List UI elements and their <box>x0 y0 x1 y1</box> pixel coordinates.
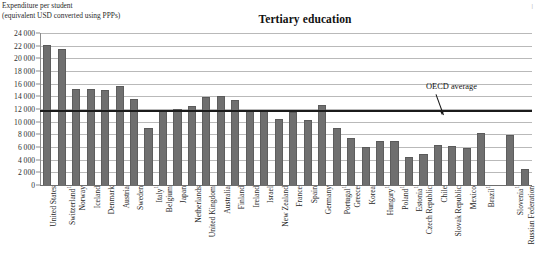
x-axis-tick-label: New Zealand <box>282 186 290 227</box>
bar <box>275 119 283 185</box>
x-axis-tick-label: Brazil1 <box>484 186 496 207</box>
bar <box>72 89 80 185</box>
bar <box>448 146 456 185</box>
y-axis-tick-label: 18 000 <box>14 67 35 76</box>
y-axis-tick-label: 24 000 <box>14 29 35 38</box>
bar <box>101 90 109 185</box>
y-axis-tick-label: 8 000 <box>18 130 35 139</box>
chart-title: Tertiary education <box>205 13 405 25</box>
x-axis-tick-label: United States <box>50 186 58 227</box>
x-axis-tick-label: Spain <box>311 186 319 203</box>
x-axis-tick-label: Switzerland1 <box>65 186 77 225</box>
x-axis-tick-label: Iceland <box>94 186 102 208</box>
y-axis-tick-label: 20 000 <box>14 54 35 63</box>
page-corner-mark: | <box>532 2 533 10</box>
x-axis-tick-label: Germany <box>325 186 333 214</box>
x-axis-tick-label: Italy1 <box>152 186 164 203</box>
bar <box>260 110 268 185</box>
bar <box>333 128 341 185</box>
x-axis-tick-label: Poland1 <box>398 186 410 210</box>
bar <box>43 45 51 185</box>
oecd-average-line <box>40 110 532 112</box>
bar <box>116 86 124 185</box>
bar <box>376 141 384 185</box>
bar <box>419 154 427 185</box>
bar <box>521 169 529 185</box>
x-axis-tick-label: Norway <box>79 186 87 210</box>
chart-figure: Expenditure per student (equivalent USD … <box>0 0 535 278</box>
bar <box>405 157 413 186</box>
y-axis-tick-label: 22 000 <box>14 41 35 50</box>
x-axis-tick-label: Australia <box>224 186 232 214</box>
x-axis-tick-label: Ireland <box>253 186 261 208</box>
bar <box>246 110 254 185</box>
x-axis-tick-label: Mexico <box>470 186 478 209</box>
bar <box>477 133 485 185</box>
x-axis-tick-label: Japan <box>180 186 188 203</box>
y-axis-tick-label: 16 000 <box>14 79 35 88</box>
x-axis-tick-label: Greece <box>354 186 362 208</box>
bar <box>304 120 312 185</box>
x-axis-labels: United StatesSwitzerland1NorwayIcelandDe… <box>40 186 532 278</box>
plot-area <box>40 33 532 185</box>
x-axis-tick-label: Finland <box>238 186 246 209</box>
bar <box>58 49 66 185</box>
x-axis-tick-label: Chile <box>441 186 449 202</box>
x-axis-tick-label: Portugal1 <box>340 186 352 214</box>
y-axis: 02 0004 0006 0008 00010 00012 00014 0001… <box>0 33 40 185</box>
x-axis-tick-label: Sweden <box>137 186 145 210</box>
x-axis-tick-label: Netherlands <box>195 186 203 223</box>
x-axis-tick-label: Slovenia1 <box>513 186 525 215</box>
axis-caption: Expenditure per student (equivalent USD … <box>2 1 120 20</box>
x-axis-tick-label: France <box>296 186 304 207</box>
bar <box>362 147 370 185</box>
bar <box>144 128 152 185</box>
x-axis-tick-label: Denmark <box>108 186 116 214</box>
bar <box>231 100 239 185</box>
x-axis-tick-label: Estonia1 <box>412 186 424 211</box>
bar <box>506 135 514 185</box>
x-axis-tick-label: Czech Republic <box>426 186 434 234</box>
y-axis-tick-label: 14 000 <box>14 92 35 101</box>
y-axis-tick-label: 12 000 <box>14 105 35 114</box>
bar <box>188 106 196 185</box>
y-axis-tick-label: 2 000 <box>18 168 35 177</box>
bar <box>347 138 355 185</box>
y-axis-tick-label: 4 000 <box>18 155 35 164</box>
x-axis-tick-label: Slovak Republic <box>455 186 463 236</box>
x-axis-tick-label: Hungary1 <box>383 186 395 215</box>
y-axis-tick-label: 10 000 <box>14 117 35 126</box>
x-axis-tick-label: Austria <box>123 186 131 208</box>
bar <box>173 109 181 185</box>
bar <box>463 148 471 185</box>
bar <box>87 89 95 185</box>
x-axis-tick-label: United Kingdom <box>209 186 217 237</box>
bar <box>318 105 326 185</box>
x-axis-tick-label: Israel <box>267 186 275 203</box>
bar <box>289 112 297 185</box>
y-axis-tick-label: 0 <box>31 181 35 190</box>
x-axis-tick-label: Russian Federation <box>528 186 535 244</box>
x-axis-tick-label: Korea <box>369 186 377 205</box>
oecd-average-label: OECD average <box>426 82 477 91</box>
y-axis-tick-label: 6 000 <box>18 143 35 152</box>
x-axis-tick-label: Belgium <box>166 186 174 212</box>
bar <box>390 141 398 185</box>
bar <box>434 145 442 185</box>
bar <box>159 110 167 185</box>
